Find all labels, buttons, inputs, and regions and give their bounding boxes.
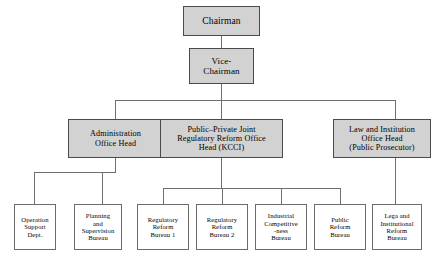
node-legal-institutional-reform-bureau-label: Lega and Institutional Reform Bureau xyxy=(378,212,415,242)
connector-riser-law xyxy=(395,100,396,119)
node-administration-office-head-label: Administration Office Head xyxy=(88,129,143,147)
node-chairman[interactable]: Chairman xyxy=(183,6,260,36)
org-chart: Chairman Vice- Chairman Administration O… xyxy=(0,0,437,262)
connector-riser-operation-support xyxy=(34,172,35,204)
node-industrial-competitiveness-bureau[interactable]: Industrial Competitive -ness Bureau xyxy=(255,204,307,250)
node-planning-supervision-bureau-label: Planning and Supervision Bureau xyxy=(80,212,117,242)
connector-riser-kcci xyxy=(221,100,222,119)
node-regulatory-reform-bureau-1[interactable]: Regulatory Reform Bureau 1 xyxy=(137,204,189,250)
connector-vice-chairman-drop xyxy=(221,84,222,100)
node-industrial-competitiveness-bureau-label: Industrial Competitive -ness Bureau xyxy=(262,212,300,242)
node-regulatory-reform-bureau-1-label: Regulatory Reform Bureau 1 xyxy=(146,216,180,238)
node-chairman-label: Chairman xyxy=(200,16,242,27)
connector-chairman-to-vice-chairman xyxy=(221,36,222,48)
node-planning-supervision-bureau[interactable]: Planning and Supervision Bureau xyxy=(74,204,122,250)
connector-administration-bus xyxy=(34,172,116,173)
connector-riser-public-reform xyxy=(340,188,341,204)
connector-riser-industrial-comp xyxy=(281,188,282,204)
connector-administration-drop xyxy=(115,158,116,172)
node-law-office-head[interactable]: Law and Institution Office Head (Public … xyxy=(333,119,431,158)
connector-riser-administration xyxy=(115,100,116,119)
node-kcci-office-head[interactable]: Public–Private Joint Regulatory Reform O… xyxy=(160,119,283,158)
node-public-reform-bureau-label: Public Reform Bureau xyxy=(328,216,353,238)
node-public-reform-bureau[interactable]: Public Reform Bureau xyxy=(314,204,366,250)
node-regulatory-reform-bureau-2[interactable]: Regulatory Reform Bureau 2 xyxy=(196,204,248,250)
connector-kcci-bus xyxy=(163,188,340,189)
node-regulatory-reform-bureau-2-label: Regulatory Reform Bureau 2 xyxy=(205,216,239,238)
connector-riser-reg-reform-2 xyxy=(222,188,223,204)
node-operation-support-dept[interactable]: Operation Support Dept. xyxy=(14,204,56,250)
connector-riser-planning-supervision xyxy=(102,172,103,204)
node-kcci-office-head-label: Public–Private Joint Regulatory Reform O… xyxy=(175,125,268,153)
node-operation-support-dept-label: Operation Support Dept. xyxy=(19,216,50,238)
connector-law-to-legal-bureau xyxy=(395,158,396,204)
node-administration-office-head[interactable]: Administration Office Head xyxy=(68,119,163,158)
node-law-office-head-label: Law and Institution Office Head (Public … xyxy=(347,125,417,153)
connector-tier3-bus xyxy=(115,100,396,101)
connector-riser-reg-reform-1 xyxy=(163,188,164,204)
node-vice-chairman[interactable]: Vice- Chairman xyxy=(189,48,254,84)
connector-kcci-drop xyxy=(221,158,222,188)
node-vice-chairman-label: Vice- Chairman xyxy=(201,56,241,76)
node-legal-institutional-reform-bureau[interactable]: Lega and Institutional Reform Bureau xyxy=(372,204,422,250)
